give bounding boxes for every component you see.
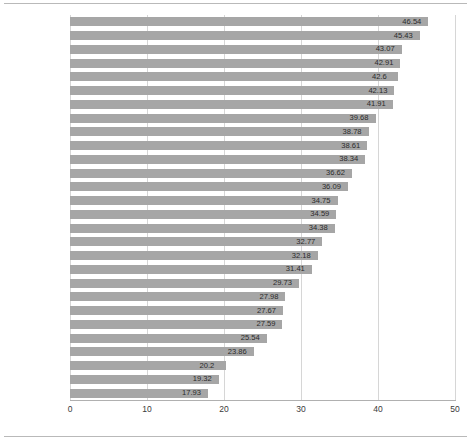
plot-area xyxy=(70,15,455,400)
bar xyxy=(70,279,299,288)
value-label: 36.09 xyxy=(322,183,341,191)
bar xyxy=(70,31,420,40)
bar-row xyxy=(70,72,455,81)
value-label: 42.6 xyxy=(372,73,387,81)
bar-row xyxy=(70,182,455,191)
value-label: 46.54 xyxy=(402,18,421,26)
value-label: 45.43 xyxy=(394,32,413,40)
bar xyxy=(70,141,367,150)
value-label: 32.77 xyxy=(296,238,315,246)
value-label: 42.13 xyxy=(368,87,387,95)
bar xyxy=(70,17,428,26)
bar xyxy=(70,182,348,191)
bar xyxy=(70,114,376,123)
value-label: 39.68 xyxy=(350,114,369,122)
figure-bottom-rule xyxy=(4,436,467,437)
bar-row xyxy=(70,155,455,164)
x-tick-label: 40 xyxy=(373,404,382,414)
bar xyxy=(70,265,312,274)
value-label: 27.59 xyxy=(256,320,275,328)
bar-row xyxy=(70,334,455,343)
x-axis-line xyxy=(70,400,456,401)
bar-row xyxy=(70,375,455,384)
bar-row xyxy=(70,17,455,26)
bar xyxy=(70,127,369,136)
value-label: 38.61 xyxy=(341,142,360,150)
bar xyxy=(70,210,336,219)
bar-row xyxy=(70,251,455,260)
bar xyxy=(70,306,283,315)
bar xyxy=(70,155,365,164)
bar xyxy=(70,334,267,343)
value-label: 31.41 xyxy=(286,265,305,273)
bar-row xyxy=(70,59,455,68)
x-tick-label: 20 xyxy=(219,404,228,414)
value-label: 38.34 xyxy=(339,155,358,163)
bar xyxy=(70,292,285,301)
bar xyxy=(70,347,254,356)
bar-row xyxy=(70,100,455,109)
value-label: 23.86 xyxy=(228,348,247,356)
bar-row xyxy=(70,279,455,288)
value-label: 29.73 xyxy=(273,279,292,287)
bar xyxy=(70,251,318,260)
bar-row xyxy=(70,45,455,54)
bar-chart: 01020304050 덴마크프랑스벨기에이탈리아스웨덴오스트리아핀란드네덜란드… xyxy=(0,12,471,428)
bar xyxy=(70,169,352,178)
bar-row xyxy=(70,169,455,178)
bar-row xyxy=(70,114,455,123)
value-label: 34.75 xyxy=(312,197,331,205)
bar xyxy=(70,86,394,95)
bar xyxy=(70,72,398,81)
bar-row xyxy=(70,361,455,370)
bar-row xyxy=(70,141,455,150)
value-label: 27.98 xyxy=(259,293,278,301)
value-label: 20.2 xyxy=(200,362,215,370)
bar xyxy=(70,100,393,109)
chart-figure: 01020304050 덴마크프랑스벨기에이탈리아스웨덴오스트리아핀란드네덜란드… xyxy=(0,0,471,441)
bar xyxy=(70,320,282,329)
figure-top-rule xyxy=(4,3,467,4)
x-tick-label: 50 xyxy=(450,404,459,414)
bar xyxy=(70,45,402,54)
x-tick-label: 30 xyxy=(296,404,305,414)
value-label: 27.67 xyxy=(257,307,276,315)
bar xyxy=(70,196,338,205)
bar-row xyxy=(70,389,455,398)
bar xyxy=(70,237,322,246)
value-label: 34.38 xyxy=(309,224,328,232)
value-label: 34.59 xyxy=(310,210,329,218)
bar xyxy=(70,224,335,233)
value-label: 17.93 xyxy=(182,389,201,397)
bar-row xyxy=(70,196,455,205)
value-label: 41.91 xyxy=(367,100,386,108)
bar-row xyxy=(70,127,455,136)
gridline-50 xyxy=(455,15,456,400)
bar-row xyxy=(70,210,455,219)
bar-row xyxy=(70,224,455,233)
value-label: 19.32 xyxy=(193,375,212,383)
x-tick-label: 0 xyxy=(68,404,73,414)
bar-row xyxy=(70,347,455,356)
bar xyxy=(70,59,400,68)
value-label: 32.18 xyxy=(292,252,311,260)
bar-row xyxy=(70,237,455,246)
value-label: 36.62 xyxy=(326,169,345,177)
value-label: 42.91 xyxy=(374,59,393,67)
x-tick-label: 10 xyxy=(142,404,151,414)
value-label: 43.07 xyxy=(376,45,395,53)
value-label: 25.54 xyxy=(241,334,260,342)
bar-row xyxy=(70,86,455,95)
bar-row xyxy=(70,265,455,274)
value-label: 38.78 xyxy=(343,128,362,136)
